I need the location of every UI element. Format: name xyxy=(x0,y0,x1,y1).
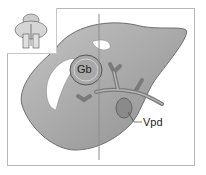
gallbladder-label: Gb xyxy=(77,63,92,75)
orientation-thumbnail-icon xyxy=(7,8,55,52)
orientation-inset xyxy=(7,8,57,54)
vessel-label: Vpd xyxy=(143,116,163,128)
